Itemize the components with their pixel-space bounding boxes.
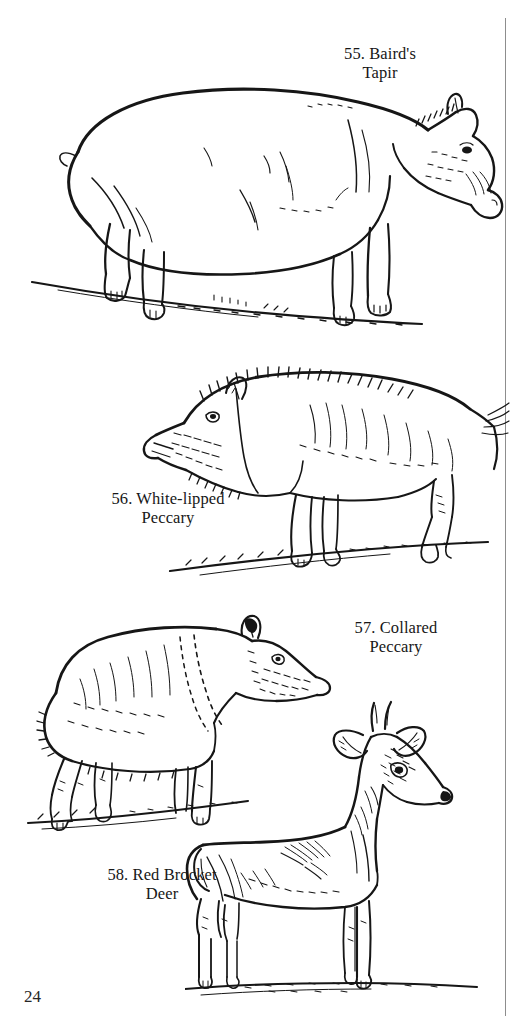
caption-white-lipped-peccary: 56. White-lipped Peccary (72, 489, 264, 528)
book-page: 55. Baird's Tapir 56. White-lipped Pecca… (0, 0, 513, 1034)
illustration-white-lipped-peccary (140, 345, 510, 600)
caption-bairds-tapir: 55. Baird's Tapir (296, 44, 464, 83)
page-number: 24 (24, 987, 41, 1007)
caption-red-brocket-deer: 58. Red Brocket Deer (66, 865, 258, 904)
caption-collared-peccary: 57. Collared Peccary (312, 618, 480, 657)
illustration-bairds-tapir (18, 60, 508, 360)
illustration-red-brocket-deer (185, 695, 505, 1000)
